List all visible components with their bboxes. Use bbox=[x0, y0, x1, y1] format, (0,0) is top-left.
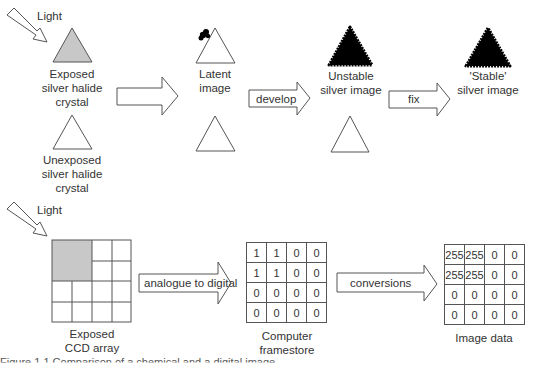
fix-label: fix bbox=[408, 92, 420, 106]
light-label-top: Light bbox=[37, 9, 62, 23]
a2d-label: analogue to digital bbox=[144, 276, 237, 290]
stable-silver-label: 'Stable' silver image bbox=[452, 69, 524, 97]
light-label-bottom: Light bbox=[37, 203, 62, 217]
develop-label: develop bbox=[256, 92, 296, 106]
exposed-crystal-label: Exposed silver halide crystal bbox=[37, 67, 107, 109]
unexposed-crystal-icon bbox=[53, 115, 92, 149]
framestore-label: Computer framestore bbox=[246, 329, 328, 357]
exposed-crystal-icon bbox=[53, 28, 92, 62]
latent-speck-icon bbox=[199, 29, 211, 41]
image-data-label: Image data bbox=[444, 331, 524, 345]
latent-image-label: Latent image bbox=[190, 67, 240, 95]
unstable-silver-icon bbox=[329, 27, 372, 65]
image-data-grid: 25525500 25525500 0000 0000 bbox=[444, 244, 525, 325]
process-arrow-1 bbox=[117, 77, 178, 115]
unexposed-crystal-label: Unexposed silver halide crystal bbox=[32, 153, 112, 195]
unstable-unexposed-crystal-icon bbox=[331, 116, 369, 152]
ccd-array bbox=[52, 240, 131, 322]
conversions-label: conversions bbox=[350, 276, 411, 290]
framestore-grid: 1100 1100 0000 0000 bbox=[246, 242, 327, 323]
stable-silver-icon bbox=[466, 28, 510, 66]
latent-unexposed-crystal-icon bbox=[196, 116, 235, 151]
ccd-array-label: Exposed CCD array bbox=[52, 327, 132, 355]
unstable-silver-label: Unstable silver image bbox=[315, 69, 387, 97]
